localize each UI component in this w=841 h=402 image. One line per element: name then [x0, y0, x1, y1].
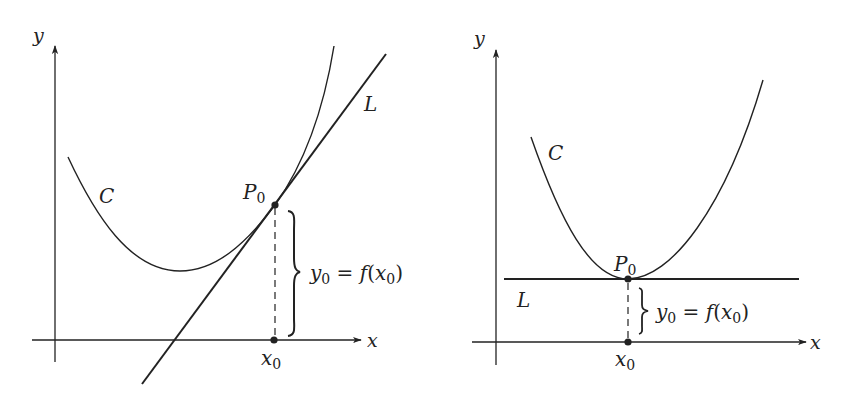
right-x0-label: x0	[615, 347, 635, 373]
left-point-x0	[270, 336, 277, 343]
right-curve-label: C	[548, 141, 563, 165]
left-point-p0	[271, 201, 278, 208]
left-y-axis-label: y	[32, 24, 44, 46]
right-brace	[639, 288, 648, 334]
left-panel: y x C L P0 x0 y0 = f(x0)	[32, 24, 403, 384]
right-x-axis-label: x	[810, 331, 821, 353]
left-brace	[288, 211, 300, 336]
right-panel: y x C L P0 x0 y0 = f(x0)	[472, 27, 821, 373]
right-curve-c	[531, 80, 763, 279]
tangent-line-diagrams: y x C L P0 x0 y0 = f(x0) y x	[0, 0, 841, 402]
right-brace-label: y0 = f(x0)	[655, 300, 749, 326]
left-p0-label: P0	[242, 180, 265, 206]
left-line-label: L	[363, 92, 377, 116]
left-x-axis-label: x	[367, 329, 378, 351]
right-point-x0	[624, 338, 631, 345]
left-tangent-line-l	[142, 54, 386, 384]
left-brace-label: y0 = f(x0)	[309, 261, 403, 287]
right-y-axis-label: y	[473, 27, 485, 49]
right-line-label: L	[516, 288, 530, 312]
left-curve-label: C	[99, 184, 114, 208]
right-p0-label: P0	[613, 252, 636, 278]
left-x0-label: x0	[261, 346, 281, 372]
